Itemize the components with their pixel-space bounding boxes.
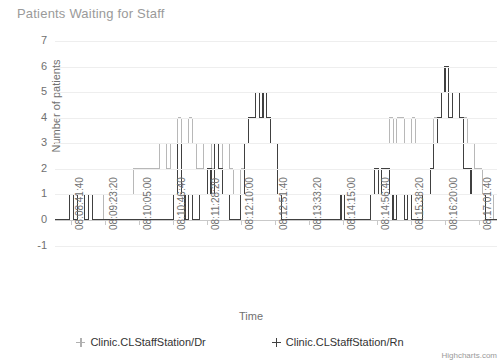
x-tick-label: 08:12:51:40	[278, 177, 289, 230]
x-tick-mark	[139, 220, 140, 225]
x-axis-title: Time	[0, 310, 502, 322]
gridline-5	[55, 92, 497, 93]
x-tick-label: 08:11:28:20	[210, 178, 221, 230]
y-tick-1: 1	[5, 187, 47, 199]
x-tick-mark	[241, 220, 242, 225]
y-tick-5: 5	[5, 85, 47, 97]
x-tick-label: 08:15:38:20	[414, 177, 425, 230]
y-tick-6: 6	[5, 60, 47, 72]
diamond-marker	[76, 338, 85, 347]
chart-legend: Clinic.CLStaffStation/DrClinic.CLStaffSt…	[0, 336, 480, 348]
x-tick-label: 08:10:46:40	[176, 177, 187, 230]
highcharts-chart: Patients Waiting for Staff Number of pat…	[0, 0, 502, 362]
x-tick-mark	[207, 220, 208, 225]
x-axis-tick-labels: 08:08:41:4008:09:23:2008:10:05:0008:10:4…	[55, 224, 497, 314]
x-tick-label: 08:08:41:40	[74, 177, 85, 230]
gridline-3	[55, 143, 497, 144]
y-tick-4: 4	[5, 111, 47, 123]
x-tick-mark	[445, 220, 446, 225]
x-tick-label: 08:10:05:00	[142, 177, 153, 230]
y-tick-3: 3	[5, 136, 47, 148]
x-tick-mark	[173, 220, 174, 225]
x-tick-label: 08:17:01:40	[482, 177, 493, 230]
x-tick-label: 08:14:56:40	[380, 177, 391, 230]
x-tick-label: 08:13:33:20	[312, 177, 323, 230]
gridline-2	[55, 169, 497, 170]
x-tick-mark	[71, 220, 72, 225]
x-tick-mark	[479, 220, 480, 225]
legend-label: Clinic.CLStaffStation/Dr	[90, 336, 205, 348]
legend-label: Clinic.CLStaffStation/Rn	[286, 336, 404, 348]
y-tick-neg1: -1	[5, 239, 47, 251]
gridline-neg1	[55, 246, 497, 247]
x-tick-label: 08:09:23:20	[108, 177, 119, 230]
series-lines	[55, 41, 497, 220]
x-axis-line	[55, 220, 497, 221]
x-tick-mark	[105, 220, 106, 225]
x-tick-mark	[343, 220, 344, 225]
x-tick-mark	[309, 220, 310, 225]
x-tick-mark	[275, 220, 276, 225]
y-tick-2: 2	[5, 162, 47, 174]
gridline-4	[55, 118, 497, 119]
gridline-7	[55, 41, 497, 42]
y-tick-0: 0	[5, 213, 47, 225]
legend-item-rn[interactable]: Clinic.CLStaffStation/Rn	[272, 336, 404, 348]
x-tick-label: 08:14:15:00	[346, 177, 357, 230]
series-line-dr	[55, 92, 497, 220]
x-tick-mark	[411, 220, 412, 225]
x-tick-mark	[377, 220, 378, 225]
plot-area	[55, 41, 497, 220]
gridline-6	[55, 67, 497, 68]
gridline-1	[55, 194, 497, 195]
y-axis-tick-labels: 76543210-1	[0, 41, 47, 241]
legend-item-dr[interactable]: Clinic.CLStaffStation/Dr	[76, 336, 205, 348]
credits-label: Highcharts.com	[441, 351, 497, 360]
y-tick-7: 7	[5, 34, 47, 46]
x-tick-label: 08:16:20:00	[448, 177, 459, 230]
plus-marker	[272, 338, 281, 347]
chart-title: Patients Waiting for Staff	[17, 6, 165, 21]
x-tick-label: 08:12:10:00	[244, 177, 255, 230]
